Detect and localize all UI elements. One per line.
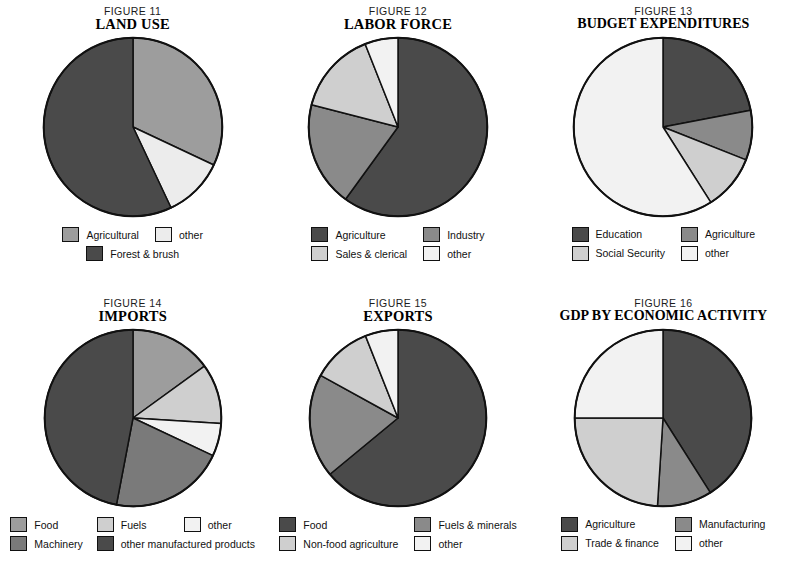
legend-item: Agricultural	[62, 227, 139, 242]
figure-panel-13: FIGURE 13 BUDGET EXPENDITURES EducationA…	[531, 0, 796, 292]
legend-label: Agricultural	[86, 230, 139, 241]
legend-item: Fuels & minerals	[414, 517, 516, 532]
legend-item: other	[423, 246, 484, 261]
figure-title: GDP BY ECONOMIC ACTIVITY	[560, 309, 768, 323]
legend-item: Education	[572, 227, 665, 242]
legend-label: other	[699, 538, 723, 549]
pie-slice	[575, 330, 663, 418]
pie-chart-labor-force	[305, 34, 491, 220]
legend-label: Agriculture	[705, 229, 755, 240]
legend-swatch	[279, 517, 296, 532]
legend-swatch	[97, 517, 114, 532]
figure-heading: FIGURE 15 EXPORTS	[363, 298, 432, 323]
legend-label: other	[208, 520, 232, 531]
figure-panel-15: FIGURE 15 EXPORTS FoodFuels & mineralsNo…	[265, 292, 530, 584]
pie-svg	[40, 34, 226, 220]
figure-title: IMPORTS	[98, 309, 167, 324]
pie-chart-exports	[306, 326, 490, 510]
legend-swatch	[681, 246, 698, 261]
legend-item: other	[155, 227, 203, 242]
legend-label: other	[705, 248, 729, 259]
pie-svg	[305, 34, 491, 220]
legend-swatch	[561, 536, 578, 551]
legend-item: Manufacturing	[675, 517, 766, 532]
legend-item: other	[184, 517, 255, 532]
legend-label: Manufacturing	[699, 519, 766, 530]
legend-swatch	[86, 246, 103, 261]
legend-label: Social Security	[596, 248, 665, 259]
legend-label: other	[438, 539, 462, 550]
figure-heading: FIGURE 12 LABOR FORCE	[344, 6, 452, 31]
legend-swatch	[97, 536, 114, 551]
legend-label: Machinery	[34, 539, 82, 550]
legend-item: Forest & brush	[86, 246, 179, 261]
legend-gdp: AgricultureManufacturingTrade & financeo…	[561, 517, 765, 551]
pie-chart-land-use	[40, 34, 226, 220]
figure-title: BUDGET EXPENDITURES	[577, 17, 749, 31]
legend-label: Fuels	[121, 520, 147, 531]
legend-labor-force: AgricultureIndustrySales & clericalother	[311, 227, 484, 261]
legend-swatch	[184, 517, 201, 532]
legend-swatch	[414, 517, 431, 532]
legend-swatch	[572, 246, 589, 261]
legend-imports: FoodFuelsotherMachineryother manufacture…	[10, 517, 255, 551]
legend-exports: FoodFuels & mineralsNon-food agriculture…	[279, 517, 516, 551]
legend-swatch	[675, 536, 692, 551]
figure-panel-14: FIGURE 14 IMPORTS FoodFuelsotherMachiner…	[0, 292, 265, 584]
legend-item: Food	[279, 517, 398, 532]
legend-label: other	[179, 230, 203, 241]
legend-swatch	[10, 536, 27, 551]
pie-slice	[575, 418, 663, 506]
legend-swatch	[62, 227, 79, 242]
legend-swatch	[561, 517, 578, 532]
legend-label: other	[447, 249, 471, 260]
legend-label: Education	[596, 229, 643, 240]
legend-item: Agriculture	[311, 227, 407, 242]
pie-chart-budget-expenditures	[570, 34, 756, 220]
figure-heading: FIGURE 16 GDP BY ECONOMIC ACTIVITY	[560, 298, 768, 323]
legend-label: Food	[303, 520, 327, 531]
legend-swatch	[279, 536, 296, 551]
legend-label: Agriculture	[585, 519, 635, 530]
legend-item: Sales & clerical	[311, 246, 407, 261]
legend-swatch	[681, 227, 698, 242]
legend-swatch	[423, 246, 440, 261]
legend-item: Fuels	[97, 517, 170, 532]
legend-item: Agriculture	[561, 517, 659, 532]
legend-item: Social Security	[572, 246, 665, 261]
legend-label: Trade & finance	[585, 538, 659, 549]
legend-item: Industry	[423, 227, 484, 242]
figures-sheet: FIGURE 11 LAND USE AgriculturalotherFore…	[0, 0, 796, 584]
legend-swatch	[311, 227, 328, 242]
legend-label: Fuels & minerals	[438, 520, 516, 531]
legend-item: Non-food agriculture	[279, 536, 398, 551]
figure-heading: FIGURE 14 IMPORTS	[98, 298, 167, 323]
figure-title: EXPORTS	[363, 309, 432, 324]
pie-svg	[570, 34, 756, 220]
figure-heading: FIGURE 11 LAND USE	[95, 6, 170, 31]
pie-slice	[44, 330, 132, 505]
legend-label: Sales & clerical	[335, 249, 407, 260]
legend-label: Forest & brush	[110, 249, 179, 260]
legend-swatch	[10, 517, 27, 532]
pie-chart-gdp	[571, 326, 755, 510]
figure-panel-16: FIGURE 16 GDP BY ECONOMIC ACTIVITY Agric…	[531, 292, 796, 584]
legend-swatch	[423, 227, 440, 242]
legend-label: Industry	[447, 230, 484, 241]
legend-item: other manufactured products	[97, 536, 255, 551]
figure-title: LABOR FORCE	[344, 17, 452, 32]
legend-item: other	[675, 536, 766, 551]
legend-label: other manufactured products	[121, 539, 255, 550]
pie-svg	[306, 326, 490, 510]
figure-heading: FIGURE 13 BUDGET EXPENDITURES	[577, 6, 749, 31]
legend-swatch	[311, 246, 328, 261]
legend-swatch	[155, 227, 172, 242]
legend-item: Machinery	[10, 536, 82, 551]
legend-budget-expenditures: EducationAgricultureSocial Securityother	[572, 227, 756, 261]
legend-item: Agriculture	[681, 227, 755, 242]
pie-chart-imports	[41, 326, 225, 510]
legend-label: Non-food agriculture	[303, 539, 398, 550]
legend-swatch	[572, 227, 589, 242]
figure-title: LAND USE	[95, 17, 170, 32]
pie-svg	[571, 326, 755, 510]
